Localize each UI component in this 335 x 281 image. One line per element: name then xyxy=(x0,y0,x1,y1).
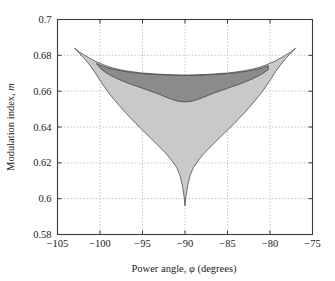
y-tick-label: 0.66 xyxy=(33,86,51,97)
x-tick-label: −80 xyxy=(262,238,278,249)
svg-text:Modulation index, m: Modulation index, m xyxy=(5,83,16,171)
y-tick-label: 0.6 xyxy=(38,193,51,204)
y-tick-label: 0.68 xyxy=(33,50,51,61)
y-tick-label: 0.62 xyxy=(33,157,51,168)
x-tick-label: −95 xyxy=(134,238,150,249)
svg-text:Power angle, φ (degrees): Power angle, φ (degrees) xyxy=(132,263,237,275)
y-axis-title-symbol: m xyxy=(5,83,16,91)
y-tick-label: 0.7 xyxy=(38,14,51,25)
x-axis-title: Power angle, φ (degrees) xyxy=(132,263,237,275)
x-axis-title-prefix: Power angle, xyxy=(132,263,189,274)
x-tick-label: −100 xyxy=(89,238,111,249)
x-tick-label: −90 xyxy=(177,238,193,249)
x-tick-label: −75 xyxy=(304,238,320,249)
y-tick-label: 0.64 xyxy=(33,122,52,133)
x-tick-label: −85 xyxy=(219,238,235,249)
y-axis-title-prefix: Modulation index, xyxy=(5,91,16,171)
modulation-index-vs-power-angle-chart: −105−100−95−90−85−80−75 0.580.60.620.640… xyxy=(0,0,335,281)
y-tick-label: 0.58 xyxy=(33,229,51,240)
y-axis-title: Modulation index, m xyxy=(5,83,16,171)
figure-container: −105−100−95−90−85−80−75 0.580.60.620.640… xyxy=(0,0,335,281)
x-axis-title-suffix: (degrees) xyxy=(195,263,237,275)
